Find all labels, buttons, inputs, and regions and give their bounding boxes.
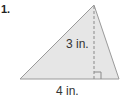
- height-label: 3 in.: [66, 37, 89, 51]
- base-label: 4 in.: [56, 84, 79, 98]
